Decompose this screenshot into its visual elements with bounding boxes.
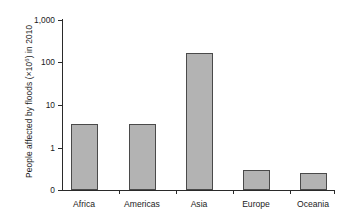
y-tick-label-0: 0 xyxy=(50,185,55,195)
y-axis-title-exponent: 6 xyxy=(24,58,30,61)
y-tick-label-10: 10 xyxy=(46,100,55,110)
y-axis-title-prefix: People affected by floods (×10 xyxy=(24,62,34,178)
x-axis-label-asia: Asia xyxy=(191,199,208,209)
x-tick-separator-3 xyxy=(233,190,234,194)
bar-europe xyxy=(243,170,270,190)
x-tick-separator-1 xyxy=(119,190,120,194)
bar-americas xyxy=(129,124,156,190)
x-axis-label-americas: Americas xyxy=(124,199,160,209)
x-axis-label-oceania: Oceania xyxy=(297,199,329,209)
x-tick-separator-2 xyxy=(176,190,177,194)
bar-asia xyxy=(186,53,213,190)
bar-africa xyxy=(71,124,98,190)
x-tick-separator-4 xyxy=(290,190,291,194)
chart-figure: People affected by floods (×106) in 2010… xyxy=(0,0,342,223)
y-tick-label-1: 1 xyxy=(50,143,55,153)
y-axis-title: People affected by floods (×106) in 2010 xyxy=(24,6,35,196)
x-tick-separator-5 xyxy=(334,190,335,194)
plot-area: 1,000 100 10 1 0 Africa Ame xyxy=(62,19,335,191)
y-tick-label-100: 100 xyxy=(41,57,55,67)
y-tick-label-1000: 1,000 xyxy=(34,15,55,25)
x-axis-label-europe: Europe xyxy=(242,199,270,209)
y-axis-line xyxy=(62,19,63,191)
y-axis-title-suffix: ) in 2010 xyxy=(24,25,34,59)
x-axis-line xyxy=(62,190,335,191)
bar-oceania xyxy=(300,173,327,190)
x-axis-label-africa: Africa xyxy=(73,199,95,209)
